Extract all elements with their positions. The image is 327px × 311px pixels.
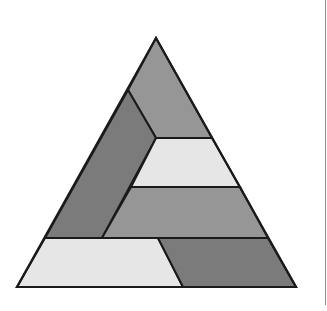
triangle-puzzle-diagram [0,0,327,311]
right-border-rule [325,0,326,305]
bottom-right-piece [158,238,296,287]
bottom-left-piece [17,238,183,287]
puzzle-pieces [17,38,296,287]
